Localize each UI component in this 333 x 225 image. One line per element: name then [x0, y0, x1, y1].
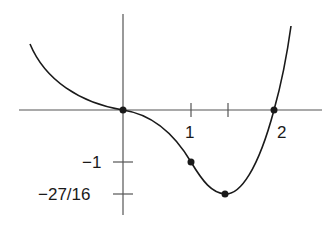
x-tick-label-2: 2	[277, 124, 286, 141]
point-1-neg1	[188, 159, 195, 166]
point-minimum	[222, 191, 229, 198]
point-root-2	[271, 107, 278, 114]
y-tick-label-neg27-16: −27/16	[38, 186, 90, 203]
y-tick-label-neg1: −1	[82, 154, 101, 171]
x-tick-label-1: 1	[185, 124, 194, 141]
point-origin	[120, 107, 127, 114]
